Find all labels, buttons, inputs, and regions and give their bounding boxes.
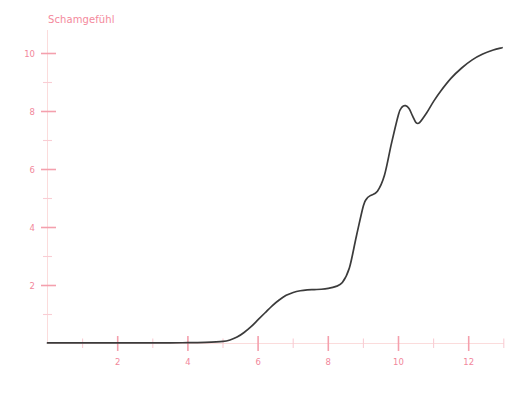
x-tick-label: 8 [326, 357, 331, 367]
x-axis-tick-labels: 24681012 [115, 357, 474, 367]
y-tick-label: 6 [30, 165, 35, 175]
y-axis-ticks [41, 54, 56, 315]
chart-figure: Schamgefühl 246810 24681012 [0, 0, 506, 395]
y-tick-label: 8 [30, 107, 35, 117]
x-tick-label: 12 [463, 357, 474, 367]
y-tick-label: 10 [24, 49, 35, 59]
x-tick-label: 4 [185, 357, 190, 367]
y-tick-label: 4 [30, 223, 35, 233]
y-tick-label: 2 [30, 281, 35, 291]
data-curve-1 [48, 48, 503, 343]
axis-lines [48, 30, 505, 344]
x-tick-label: 6 [255, 357, 260, 367]
data-series-group [48, 48, 503, 343]
x-tick-label: 2 [115, 357, 120, 367]
y-axis-tick-labels: 246810 [24, 49, 35, 291]
x-tick-label: 10 [393, 357, 404, 367]
line-chart-plot: 246810 24681012 [0, 0, 506, 395]
